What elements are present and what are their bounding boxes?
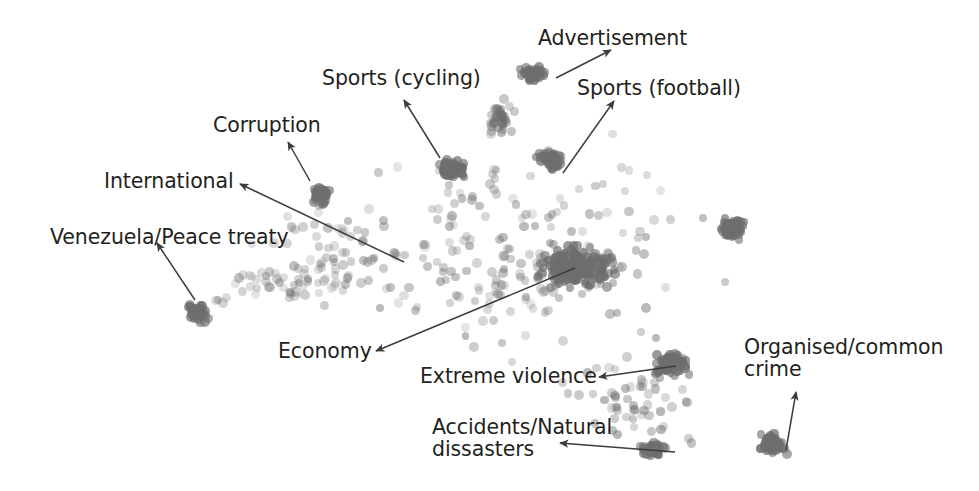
cluster-label-international: International <box>104 171 234 193</box>
cluster-label-economy: Economy <box>278 341 372 363</box>
cluster-label-accidents_natural_dissasters: Accidents/Natural dissasters <box>432 417 612 460</box>
cluster-label-sports_football: Sports (football) <box>577 78 741 100</box>
cluster-label-organised_common_crime: Organised/common crime <box>744 337 943 380</box>
cluster-label-corruption: Corruption <box>213 115 321 137</box>
cluster-label-sports_cycling: Sports (cycling) <box>322 68 481 90</box>
scatter-plot-figure: AdvertisementSports (cycling)Sports (foo… <box>0 0 979 491</box>
cluster-label-advertisement: Advertisement <box>538 28 687 50</box>
annotation-labels-layer: AdvertisementSports (cycling)Sports (foo… <box>0 0 979 491</box>
cluster-label-venezuela_peace_treaty: Venezuela/Peace treaty <box>50 227 289 249</box>
cluster-label-extreme_violence: Extreme violence <box>420 366 597 388</box>
